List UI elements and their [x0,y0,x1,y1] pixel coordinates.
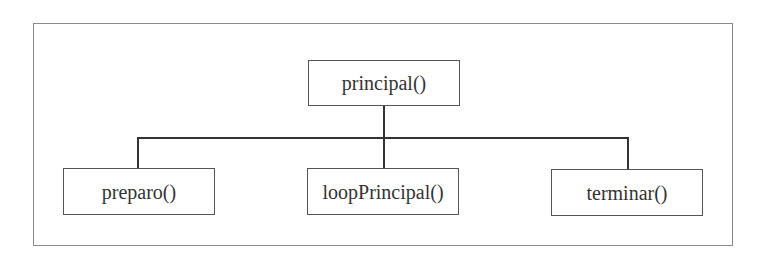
connector-to-terminar [627,137,629,169]
connector-to-preparo [137,137,139,168]
node-terminar: terminar() [551,169,703,216]
node-principal: principal() [308,60,460,106]
connector-root-down [383,106,385,138]
node-label: preparo() [102,182,176,202]
node-label: loopPrincipal() [322,182,443,202]
node-label: principal() [342,73,426,93]
node-loopprincipal: loopPrincipal() [307,168,459,215]
connector-to-loopprincipal [383,137,385,168]
node-preparo: preparo() [63,168,215,215]
node-label: terminar() [586,183,667,203]
